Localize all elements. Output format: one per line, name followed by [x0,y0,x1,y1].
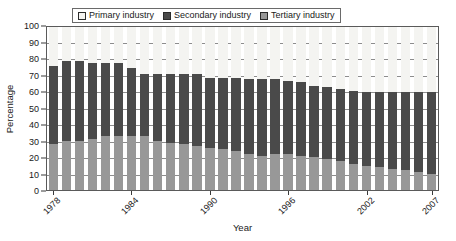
y-axis-label: Percentage [4,59,15,159]
bar-segment-primary-industry [244,27,253,79]
bar-segment-secondary-industry [75,61,84,141]
bar-segment-tertiary-industry [49,144,58,190]
bar-segment-primary-industry [283,27,292,81]
bar-segment-secondary-industry [153,74,162,141]
bar-group [308,27,321,190]
stacked-bar [218,27,227,190]
bar-group [177,27,190,190]
bar-segment-secondary-industry [218,78,227,150]
bar-segment-primary-industry [62,27,71,61]
bar-segment-secondary-industry [375,92,384,167]
bar-segment-primary-industry [270,27,279,79]
y-axis-tick-label: 40 [29,121,39,130]
y-axis-tick-label: 0 [34,187,39,196]
legend-label-secondary-industry: Secondary industry [174,11,251,20]
y-axis-tick-label: 100 [24,22,39,31]
bar-segment-secondary-industry [49,66,58,144]
stacked-bar [75,27,84,190]
bar-segment-secondary-industry [401,92,410,170]
stacked-bar [388,27,397,190]
stacked-bar [179,27,188,190]
bar-segment-secondary-industry [349,91,358,164]
stacked-bar [114,27,123,190]
y-axis-tick-label: 60 [29,88,39,97]
legend-swatch-secondary-industry [163,12,171,20]
bar-segment-primary-industry [349,27,358,91]
bar-group [347,27,360,190]
x-axis: 197819841990199620022007 [46,191,439,221]
stacked-bar [270,27,279,190]
bar-group [125,27,138,190]
bar-segment-secondary-industry [309,86,318,158]
bar-group [86,27,99,190]
bar-segment-primary-industry [101,27,110,63]
plot-area [46,26,439,191]
stacked-bar [153,27,162,190]
bar-segment-tertiary-industry [362,166,371,190]
stacked-bar [375,27,384,190]
stacked-bar [101,27,110,190]
bar-segment-tertiary-industry [218,149,227,190]
bar-group [60,27,73,190]
bar-segment-primary-industry [414,27,423,92]
stacked-bar [309,27,318,190]
stacked-bar [336,27,345,190]
bar-segment-primary-industry [388,27,397,92]
legend-item-secondary-industry: Secondary industry [163,11,251,20]
bar-segment-primary-industry [336,27,345,89]
stacked-bar [244,27,253,190]
y-axis-tick-label: 50 [29,104,39,113]
bar-segment-secondary-industry [336,89,345,161]
bar-group [373,27,386,190]
y-axis-tick-label: 20 [29,154,39,163]
bar-segment-primary-industry [322,27,331,87]
bar-segment-secondary-industry [166,74,175,142]
stacked-bar [296,27,305,190]
bar-segment-tertiary-industry [375,167,384,190]
bar-segment-tertiary-industry [401,170,410,190]
bar-segment-tertiary-industry [166,143,175,190]
stacked-bar [205,27,214,190]
bar-segment-tertiary-industry [296,156,305,190]
bar-segment-primary-industry [401,27,410,92]
bar-segment-tertiary-industry [349,164,358,190]
stacked-bar [401,27,410,190]
x-axis-tick-label: 1984 [120,196,141,217]
bar-segment-primary-industry [427,27,436,92]
bar-group [386,27,399,190]
bar-segment-tertiary-industry [231,151,240,190]
x-axis-tick-mark [131,191,132,195]
bar-segment-primary-industry [127,27,136,68]
bar-group [412,27,425,190]
bar-segment-secondary-industry [270,79,279,154]
bar-group [164,27,177,190]
bar-segment-secondary-industry [322,87,331,159]
bar-group [269,27,282,190]
x-axis-tick-label: 1978 [41,196,62,217]
bar-segment-tertiary-industry [75,141,84,190]
bar-segment-primary-industry [75,27,84,61]
bar-segment-tertiary-industry [309,157,318,190]
bar-group [321,27,334,190]
bar-segment-primary-industry [218,27,227,78]
stacked-bar [414,27,423,190]
bar-segment-secondary-industry [388,92,397,169]
bar-segment-secondary-industry [140,74,149,136]
bar-segment-primary-industry [257,27,266,79]
bar-segment-secondary-industry [257,79,266,156]
bar-segment-tertiary-industry [336,161,345,190]
legend-swatch-tertiary-industry [260,12,268,20]
y-axis-tick-label: 10 [29,170,39,179]
bar-segment-primary-industry [309,27,318,86]
bar-segment-tertiary-industry [270,154,279,190]
bar-segment-primary-industry [166,27,175,74]
stacked-bar [88,27,97,190]
bar-group [360,27,373,190]
bar-segment-primary-industry [231,27,240,78]
stacked-bar [362,27,371,190]
bar-segment-secondary-industry [414,92,423,172]
bar-segment-primary-industry [114,27,123,63]
bar-segment-tertiary-industry [322,159,331,190]
bar-segment-secondary-industry [101,63,110,136]
stacked-bar [140,27,149,190]
